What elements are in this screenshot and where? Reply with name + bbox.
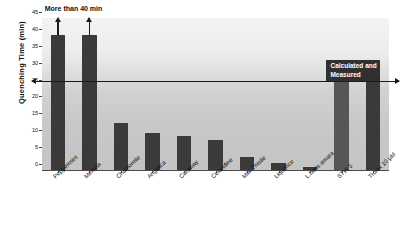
bar bbox=[82, 35, 97, 170]
y-tick-label: 15 bbox=[32, 110, 42, 116]
y-axis-title: Quenching Time (min) bbox=[17, 0, 26, 128]
chart-figure: Quenching Time (min) 051015202530354045 … bbox=[0, 0, 404, 225]
more-than-40-min-annotation: More than 40 min bbox=[45, 5, 103, 12]
plot-area: 051015202530354045 bbox=[42, 18, 389, 170]
x-tick-mark bbox=[279, 170, 280, 173]
overflow-arrow-icon bbox=[89, 21, 91, 35]
y-tick-label: 5 bbox=[35, 144, 42, 150]
y-tick-label: 45 bbox=[32, 9, 42, 15]
calculated-and-measured-annotation: Calculated and Measured bbox=[326, 60, 379, 81]
overflow-arrow-icon bbox=[57, 21, 59, 35]
bar bbox=[366, 82, 381, 170]
y-tick-label: 20 bbox=[32, 93, 42, 99]
arrow-right-icon bbox=[395, 78, 400, 84]
x-tick-mark bbox=[247, 170, 248, 173]
arrow-left-icon bbox=[31, 78, 36, 84]
bar bbox=[51, 35, 66, 170]
x-tick-mark bbox=[58, 170, 59, 173]
x-tick-mark bbox=[310, 170, 311, 173]
x-tick-mark bbox=[342, 170, 343, 173]
y-tick-label: 0 bbox=[35, 161, 42, 167]
bar bbox=[334, 82, 349, 170]
y-tick-label: 10 bbox=[32, 127, 42, 133]
x-tick-mark bbox=[152, 170, 153, 173]
x-tick-mark bbox=[89, 170, 90, 173]
x-tick-mark bbox=[121, 170, 122, 173]
y-tick-label: 35 bbox=[32, 43, 42, 49]
x-tick-mark bbox=[184, 170, 185, 173]
x-tick-mark bbox=[216, 170, 217, 173]
y-tick-label: 30 bbox=[32, 60, 42, 66]
y-tick-label: 40 bbox=[32, 26, 42, 32]
x-tick-mark bbox=[373, 170, 374, 173]
